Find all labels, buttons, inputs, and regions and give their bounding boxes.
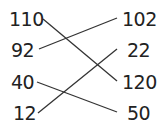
left-number-1: 110 <box>9 10 44 29</box>
right-number-4: 50 <box>127 104 150 123</box>
right-number-2: 22 <box>127 41 150 60</box>
line-110-120 <box>43 19 117 81</box>
left-number-4: 12 <box>13 104 36 123</box>
line-40-50 <box>37 82 117 112</box>
line-12-22 <box>38 49 117 113</box>
left-number-2: 92 <box>11 41 34 60</box>
right-number-3: 120 <box>122 73 157 92</box>
right-number-1: 102 <box>122 10 157 29</box>
line-92-102 <box>39 18 117 49</box>
left-number-3: 40 <box>11 73 34 92</box>
